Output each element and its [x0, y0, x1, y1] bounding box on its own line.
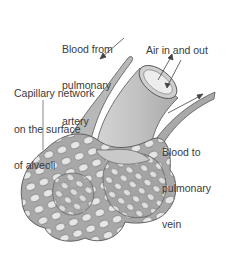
label-artery-line1: Blood from: [62, 43, 113, 55]
label-vein-line2: pulmonary: [162, 182, 211, 194]
label-capillary-line2: on the surface: [14, 123, 95, 135]
alveoli-diagram: Blood from pulmonary artery Air in and o…: [0, 0, 231, 258]
label-air: Air in and out: [146, 20, 208, 80]
label-vein-line3: vein: [162, 218, 211, 230]
label-vein-line1: Blood to: [162, 146, 211, 158]
label-air-line1: Air in and out: [146, 44, 208, 56]
label-capillary-network: Capillary network on the surface of alve…: [14, 63, 95, 195]
label-vein: Blood to pulmonary vein: [162, 122, 211, 254]
label-capillary-line1: Capillary network: [14, 87, 95, 99]
label-capillary-line3: of alveoli: [14, 159, 95, 171]
